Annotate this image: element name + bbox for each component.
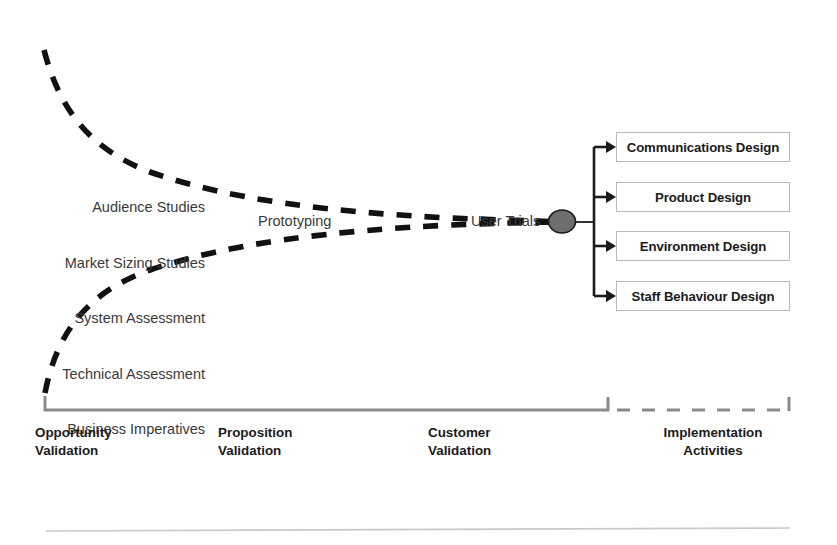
phase-label-line1: Opportunity [35, 424, 185, 442]
phase-label-line1: Implementation [628, 424, 798, 442]
input-activity-item: Technical Assessment [0, 365, 205, 384]
phase-label-opportunity-validation: Opportunity Validation [35, 424, 185, 459]
convergence-node-icon [549, 210, 576, 233]
stage-label-prototyping: Prototyping [258, 212, 331, 230]
phase-label-line2: Validation [428, 442, 578, 460]
phase-label-implementation-activities: Implementation Activities [628, 424, 798, 459]
diagram-canvas: Audience Studies Market Sizing Studies S… [0, 0, 837, 545]
input-activity-item: System Assessment [0, 309, 205, 328]
output-box-label: Product Design [655, 190, 751, 205]
phase-label-line2: Activities [628, 442, 798, 460]
phase-label-line1: Proposition [218, 424, 368, 442]
output-box-communications-design[interactable]: Communications Design [616, 132, 790, 162]
arrowhead-0 [606, 141, 616, 153]
output-box-label: Environment Design [640, 239, 766, 254]
phase-label-line2: Validation [35, 442, 185, 460]
input-activity-item: Audience Studies [0, 198, 205, 217]
output-box-label: Staff Behaviour Design [632, 289, 775, 304]
phase-label-proposition-validation: Proposition Validation [218, 424, 368, 459]
phase-label-line2: Validation [218, 442, 368, 460]
arrowhead-1 [606, 191, 616, 203]
output-box-environment-design[interactable]: Environment Design [616, 231, 790, 261]
phase-label-customer-validation: Customer Validation [428, 424, 578, 459]
input-activity-item: Market Sizing Studies [0, 254, 205, 273]
arrowhead-2 [606, 240, 616, 252]
arrowhead-3 [606, 290, 616, 302]
output-box-staff-behaviour-design[interactable]: Staff Behaviour Design [616, 281, 790, 311]
output-box-product-design[interactable]: Product Design [616, 182, 790, 212]
footer-rule [46, 528, 790, 531]
output-box-label: Communications Design [627, 140, 780, 155]
phase-label-line1: Customer [428, 424, 578, 442]
node-and-connectors [549, 141, 617, 302]
stage-label-user-trials: User Trials [471, 212, 540, 230]
